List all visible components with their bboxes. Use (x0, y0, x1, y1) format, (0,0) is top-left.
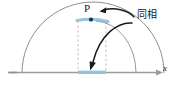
secondary-arc (96, 21, 136, 72)
curved-arrow-to-axis-head (90, 61, 96, 70)
point-marker-icon (89, 18, 93, 22)
curved-arrow-to-point-p (104, 9, 134, 17)
arrowhead-icon (156, 70, 163, 76)
point-p-label: P (84, 3, 90, 14)
x-axis-label: x (163, 64, 167, 73)
curved-arrow-to-axis (93, 23, 132, 62)
curved-arrow-to-point-p-head (100, 7, 107, 13)
same-phase-annotation-label: 同相 (137, 10, 157, 20)
